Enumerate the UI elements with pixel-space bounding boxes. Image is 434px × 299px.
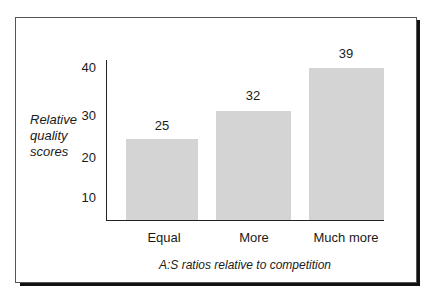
frame-shadow-right bbox=[417, 20, 420, 286]
frame-shadow-bottom bbox=[20, 283, 420, 286]
data-label: 25 bbox=[124, 118, 200, 133]
x-category-label: Equal bbox=[114, 230, 214, 245]
x-axis bbox=[106, 220, 384, 221]
bar-equal bbox=[126, 139, 198, 220]
y-axis bbox=[106, 60, 107, 221]
data-label: 39 bbox=[308, 46, 384, 61]
y-axis-label-line: quality bbox=[30, 128, 77, 144]
x-category-label: Much more bbox=[296, 230, 396, 245]
x-category-label: More bbox=[204, 230, 304, 245]
y-tick: 40 bbox=[66, 60, 96, 75]
y-tick: 10 bbox=[66, 190, 96, 205]
y-tick: 30 bbox=[66, 108, 96, 123]
x-axis-label: A:S ratios relative to competition bbox=[106, 258, 384, 272]
bar-more bbox=[216, 111, 291, 220]
bar-much-more bbox=[309, 68, 384, 220]
y-tick: 20 bbox=[66, 150, 96, 165]
data-label: 32 bbox=[215, 88, 291, 103]
